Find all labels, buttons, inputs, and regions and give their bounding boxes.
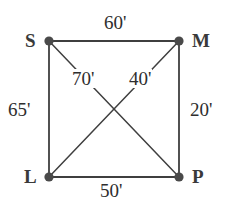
edge-label-right-mp: 20' (190, 100, 212, 119)
vertex-dot-l (44, 172, 53, 181)
vertex-dot-s (44, 36, 53, 45)
edge-label-bottom-lp: 50' (100, 181, 122, 200)
diagonals-group (49, 41, 179, 177)
vertex-dot-m (174, 36, 183, 45)
vertex-dot-p (174, 172, 183, 181)
vertex-label-l: L (24, 167, 37, 186)
edge-label-left-sl: 65' (8, 100, 30, 119)
diagonal-label-ml: 40' (128, 69, 152, 88)
vertex-label-p: P (192, 167, 204, 186)
distance-diagram: S M L P 60' 20' 50' 65' 70' 40' (0, 0, 236, 205)
vertex-label-m: M (192, 31, 210, 50)
diagonal-label-sp: 70' (71, 69, 95, 88)
vertex-label-s: S (25, 31, 36, 50)
edge-label-top-sm: 60' (104, 13, 126, 32)
